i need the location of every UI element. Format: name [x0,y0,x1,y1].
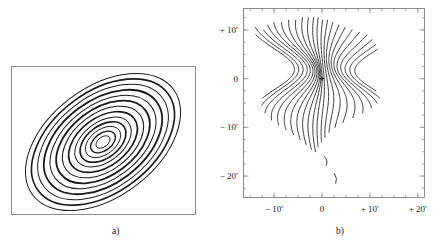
figure-container: a) b) + 10′0− 10′− 20′− 10′0+ 10′+ 20′ [0,0,439,250]
panel-a-contour-plot [11,66,196,215]
panel-b-contour [355,49,378,90]
panel-b-contour-plot [243,8,425,198]
x-axis-tick-label: + 20′ [409,204,427,214]
panel-a-contour [11,66,196,215]
panel-a-contour [24,69,181,215]
y-axis-tick-label: 0 [234,74,239,84]
panel-b-contour [268,25,308,120]
panel-b-contour-group [255,18,379,184]
panel-b-contour [302,18,319,145]
panel-a-contour [66,107,141,177]
panel-a-contour [33,76,174,208]
y-axis-tick-label: + 10′ [220,25,238,35]
panel-b-contour [281,23,313,130]
panel-a-contour [80,120,127,164]
panel-a-contour-group [11,66,196,215]
panel-b-contour [324,20,329,137]
x-axis-tick-label: − 10′ [265,204,283,214]
panel-a-caption: a) [112,226,119,236]
panel-b-contour-fragment [334,174,336,184]
panel-b-contour [264,30,304,113]
panel-b-contour [321,20,324,142]
panel-a-contour [57,99,148,185]
y-axis-tick-label: − 20′ [220,171,238,181]
panel-b-contour [331,27,347,122]
panel-b [243,8,425,198]
y-axis-tick-label: − 10′ [220,122,238,132]
panel-b-contour-fragment [324,157,327,166]
x-axis-tick-label: + 10′ [361,204,379,214]
panel-b-caption: b) [336,226,344,236]
panel-a [11,66,196,215]
x-axis-tick-label: 0 [320,204,325,214]
panel-a-contour [49,92,157,193]
